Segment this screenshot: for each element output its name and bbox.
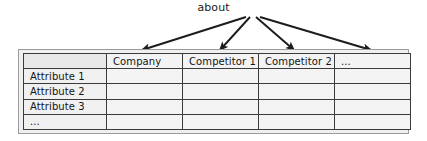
- column-header-company: Company: [107, 54, 183, 69]
- column-header-competitor-2: Competitor 2: [259, 54, 335, 69]
- row-header-attribute-1: Attribute 1: [24, 69, 107, 84]
- table-row: Attribute 2: [24, 84, 411, 99]
- table-header: Company Competitor 1 Competitor 2 ...: [24, 54, 411, 69]
- cell-r1-c3: [335, 84, 411, 99]
- cell-r2-c2: [259, 99, 335, 114]
- row-header-attribute-3: Attribute 3: [24, 99, 107, 114]
- column-header-more: ...: [335, 54, 411, 69]
- table-row: Attribute 1: [24, 69, 411, 84]
- cell-r2-c3: [335, 99, 411, 114]
- cell-r0-c1: [183, 69, 259, 84]
- cell-r3-c1: [183, 114, 259, 129]
- table-body: Attribute 1 Attribute 2 Attribute 3: [24, 69, 411, 130]
- about-annotation-label: about: [0, 1, 427, 14]
- cell-r2-c0: [107, 99, 183, 114]
- cell-r0-c3: [335, 69, 411, 84]
- arrow-to-more-columns: [260, 17, 371, 50]
- cell-r3-c0: [107, 114, 183, 129]
- column-header-competitor-1: Competitor 1: [183, 54, 259, 69]
- header-row: Company Competitor 1 Competitor 2 ...: [24, 54, 411, 69]
- row-header-more: ...: [24, 114, 107, 129]
- cell-r1-c1: [183, 84, 259, 99]
- table-row: Attribute 3: [24, 99, 411, 114]
- comparison-matrix-table: Company Competitor 1 Competitor 2 ... At…: [23, 53, 411, 130]
- arrow-to-competitor-2: [256, 17, 294, 50]
- cell-r1-c0: [107, 84, 183, 99]
- corner-cell: [24, 54, 107, 69]
- matrix-frame: Company Competitor 1 Competitor 2 ... At…: [18, 49, 409, 134]
- cell-r0-c0: [107, 69, 183, 84]
- cell-r0-c2: [259, 69, 335, 84]
- competitive-matrix-diagram: about Company Competitor 1 Competitor 2 …: [0, 0, 427, 141]
- table-row: ...: [24, 114, 411, 129]
- cell-r1-c2: [259, 84, 335, 99]
- arrow-to-company: [142, 17, 246, 50]
- cell-r2-c1: [183, 99, 259, 114]
- row-header-attribute-2: Attribute 2: [24, 84, 107, 99]
- arrow-to-competitor-1: [220, 17, 250, 50]
- cell-r3-c3: [335, 114, 411, 129]
- cell-r3-c2: [259, 114, 335, 129]
